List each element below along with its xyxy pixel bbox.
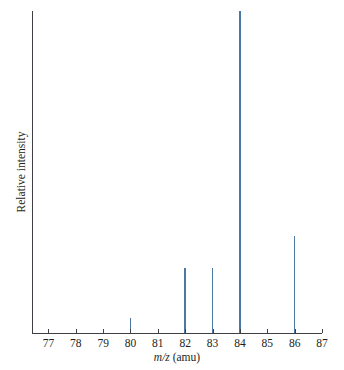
x-tick-86 xyxy=(295,329,296,333)
x-axis-line xyxy=(32,333,322,334)
mass-spectrum-figure: 7778798081828384858687 m/z (amu) Relativ… xyxy=(0,0,344,370)
x-tick-78 xyxy=(76,329,77,333)
peak-mz-84 xyxy=(239,11,241,333)
x-tick-label-84: 84 xyxy=(225,336,255,350)
x-tick-83 xyxy=(213,329,214,333)
x-tick-label-79: 79 xyxy=(88,336,118,350)
x-tick-84 xyxy=(240,329,241,333)
x-tick-85 xyxy=(267,329,268,333)
x-tick-82 xyxy=(185,329,186,333)
y-axis-title: Relative intensity xyxy=(14,11,28,333)
plot-area xyxy=(32,11,322,333)
x-tick-77 xyxy=(48,329,49,333)
cropped-caption-remnant xyxy=(55,0,235,5)
peak-mz-82 xyxy=(184,268,186,333)
x-axis-title-rest: (amu) xyxy=(170,351,200,363)
x-tick-87 xyxy=(322,329,323,333)
x-axis-title: m/z (amu) xyxy=(32,350,322,364)
x-tick-81 xyxy=(158,329,159,333)
x-tick-79 xyxy=(103,329,104,333)
x-tick-label-80: 80 xyxy=(115,336,145,350)
x-tick-label-81: 81 xyxy=(143,336,173,350)
x-tick-label-85: 85 xyxy=(252,336,282,350)
x-tick-label-82: 82 xyxy=(170,336,200,350)
peak-mz-86 xyxy=(294,236,296,333)
x-axis-title-italic: m/z xyxy=(154,351,170,363)
x-tick-label-77: 77 xyxy=(33,336,63,350)
x-tick-label-83: 83 xyxy=(198,336,228,350)
x-tick-label-78: 78 xyxy=(61,336,91,350)
x-tick-80 xyxy=(130,329,131,333)
x-tick-label-86: 86 xyxy=(280,336,310,350)
x-tick-label-87: 87 xyxy=(307,336,337,350)
peak-mz-83 xyxy=(212,268,214,333)
